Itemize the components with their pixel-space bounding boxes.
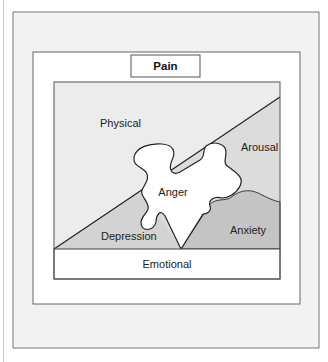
label-depression: Depression (101, 230, 157, 242)
label-anger: Anger (158, 186, 188, 198)
pain-diagram: Pain Physical Arousal Anger Depression A… (0, 0, 328, 362)
label-anxiety: Anxiety (230, 224, 267, 236)
label-physical: Physical (100, 117, 141, 129)
label-arousal: Arousal (241, 141, 278, 153)
pain-title: Pain (153, 60, 177, 72)
label-emotional: Emotional (143, 258, 192, 270)
